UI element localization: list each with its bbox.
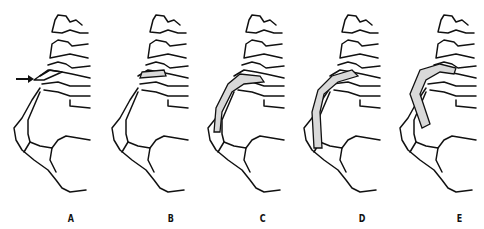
panel-label-d: D — [359, 213, 366, 224]
panel-e-drawing — [400, 15, 476, 192]
strut-graft — [214, 74, 264, 132]
panel-label-b: B — [168, 213, 174, 224]
panel-d-drawing — [304, 15, 380, 192]
figure: A B C D E — [0, 0, 484, 229]
panel-label-a: A — [68, 213, 74, 224]
strut-graft — [410, 64, 456, 128]
panel-b-drawing — [112, 15, 188, 192]
disc-graft — [140, 70, 166, 78]
panel-c-drawing — [208, 15, 284, 192]
panel-label-c: C — [260, 213, 266, 224]
spine-diagram — [0, 0, 484, 229]
panel-a-drawing — [14, 15, 90, 192]
arrow-icon — [16, 75, 34, 83]
panel-label-e: E — [457, 213, 462, 224]
strut-graft — [312, 70, 358, 148]
